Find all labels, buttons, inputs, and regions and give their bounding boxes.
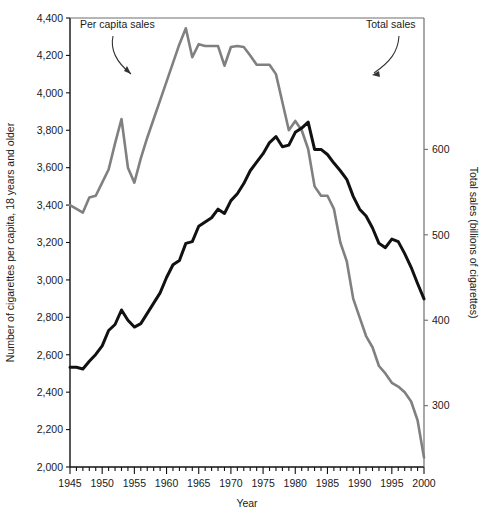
x-axis-tick-label: 1960 (155, 477, 179, 489)
x-axis-title: Year (236, 497, 258, 509)
x-axis-tick-label: 1980 (284, 477, 308, 489)
annotation-total-label: Total sales (366, 18, 416, 30)
y-axis-tick-label: 3,000 (37, 274, 63, 286)
x-axis-tick-label: 1950 (91, 477, 115, 489)
x-axis-tick-label: 1975 (251, 477, 275, 489)
x-axis-tick-label: 1955 (123, 477, 147, 489)
y-axis-tick-label: 3,600 (37, 161, 63, 173)
x-axis-tick-label: 1945 (58, 477, 82, 489)
per-capita-series (70, 28, 424, 457)
x-axis-tick-label: 1970 (219, 477, 243, 489)
cigarette-sales-chart: 2,0002,2002,4002,6002,8003,0003,2003,400… (0, 0, 482, 517)
annotation-per-capita-arrow (112, 36, 131, 74)
y-axis-tick-label: 4,000 (37, 87, 63, 99)
y2-axis-tick-label: 500 (432, 229, 450, 241)
annotation-per-capita-arrowhead (124, 66, 131, 74)
annotation-per-capita-label: Per capita sales (80, 18, 155, 30)
y-axis-tick-label: 2,800 (37, 311, 63, 323)
x-axis-tick-label: 2000 (412, 477, 436, 489)
y-axis-tick-label: 2,600 (37, 349, 63, 361)
y-axis-title: Number of cigarettes per capita, 18 year… (4, 122, 16, 362)
y-axis-tick-label: 3,400 (37, 199, 63, 211)
y2-axis-tick-label: 600 (432, 143, 450, 155)
y-axis-tick-label: 3,800 (37, 124, 63, 136)
annotation-total-arrow (374, 36, 399, 73)
y-axis-tick-label: 2,400 (37, 386, 63, 398)
y-axis-tick-label: 4,200 (37, 49, 63, 61)
x-axis-tick-label: 1995 (380, 477, 404, 489)
y-axis-tick-label: 4,400 (37, 12, 63, 24)
total-series (70, 122, 424, 369)
y2-axis-tick-label: 300 (432, 399, 450, 411)
chart-canvas: 2,0002,2002,4002,6002,8003,0003,2003,400… (0, 0, 482, 517)
y-axis-tick-label: 2,200 (37, 423, 63, 435)
y2-axis-tick-label: 400 (432, 314, 450, 326)
y-axis-tick-label: 2,000 (37, 461, 63, 473)
x-axis-tick-label: 1985 (316, 477, 340, 489)
x-axis-tick-label: 1965 (187, 477, 211, 489)
y2-axis-title: Total sales (billions of cigarettes) (468, 167, 480, 319)
x-axis-tick-label: 1990 (348, 477, 372, 489)
y-axis-tick-label: 3,200 (37, 236, 63, 248)
